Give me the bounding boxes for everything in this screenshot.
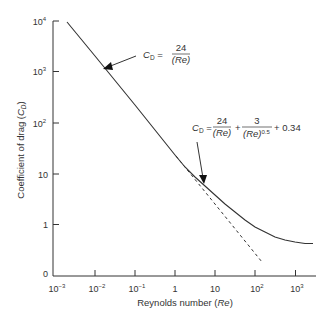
svg-text:10−3: 10−3 xyxy=(49,283,67,294)
drag-coefficient-chart: 104 103 102 10 1 0 10−3 10−2 10−1 1 10 1… xyxy=(0,0,333,321)
svg-text:10: 10 xyxy=(210,284,220,294)
annotation-full-equation: CD = 24 (Re) + 3 (Re)0.5 + 0.34 xyxy=(192,115,301,184)
svg-text:24: 24 xyxy=(217,115,228,126)
svg-text:24: 24 xyxy=(176,42,187,53)
svg-text:103: 103 xyxy=(33,66,47,77)
svg-text:103: 103 xyxy=(290,283,304,294)
svg-text:CD =: CD = xyxy=(192,122,212,134)
y-axis-title: Coefficient of drag (CD) xyxy=(15,101,27,198)
svg-text:+ 0.34: + 0.34 xyxy=(274,122,301,133)
svg-text:(Re)0.5: (Re)0.5 xyxy=(243,128,270,139)
svg-text:3: 3 xyxy=(254,115,259,126)
svg-text:102: 102 xyxy=(250,283,264,294)
svg-text:10−2: 10−2 xyxy=(89,283,107,294)
svg-text:10−1: 10−1 xyxy=(129,283,147,294)
svg-text:(Re): (Re) xyxy=(172,54,190,65)
x-axis-title: Reynolds number (Re) xyxy=(137,297,233,308)
svg-text:CD =: CD = xyxy=(143,49,163,61)
svg-text:0: 0 xyxy=(43,269,48,279)
svg-text:(Re): (Re) xyxy=(213,127,231,138)
svg-text:1: 1 xyxy=(43,220,48,230)
svg-text:1: 1 xyxy=(172,284,177,294)
svg-text:104: 104 xyxy=(33,16,47,27)
stokes-line-dashed xyxy=(176,156,262,262)
svg-text:10: 10 xyxy=(38,170,48,180)
svg-text:102: 102 xyxy=(33,118,47,129)
svg-text:+: + xyxy=(235,122,241,133)
x-tick-labels: 10−3 10−2 10−1 1 10 102 103 xyxy=(49,283,305,294)
annotation-stokes: CD = 24 (Re) xyxy=(103,42,190,70)
y-tick-labels: 104 103 102 10 1 0 xyxy=(33,16,48,279)
